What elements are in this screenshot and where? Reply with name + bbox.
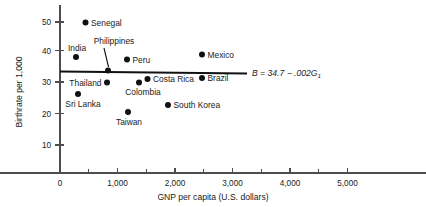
y-axis-title: Birthrate per 1,000 xyxy=(14,56,24,127)
regression-equation-label: B = 34.7 − .002G1 xyxy=(252,68,321,79)
data-point-senegal: Senegal xyxy=(83,18,122,28)
x-tick-label: 4,000 xyxy=(280,179,301,188)
data-point-marker xyxy=(73,54,79,60)
data-point-marker xyxy=(165,102,171,108)
data-point-philippines: Philippines xyxy=(94,36,135,74)
data-point-marker xyxy=(105,68,111,74)
data-point-label: Thailand xyxy=(69,78,101,88)
data-point-label: Senegal xyxy=(91,18,122,28)
y-axis-ticks: 50 40 30 20 10 xyxy=(42,18,64,150)
x-tick-4000: 4,000 xyxy=(280,168,301,188)
equation-text: B = 34.7 − .002G xyxy=(252,68,318,78)
x-axis-ticks: 0 1,000 2,000 3,000 4,000 5,000 xyxy=(58,168,358,188)
data-point-taiwan: Taiwan xyxy=(116,109,142,127)
data-point-thailand: Thailand xyxy=(69,78,110,88)
y-tick-label: 10 xyxy=(42,141,52,150)
y-tick-label: 30 xyxy=(42,78,52,87)
x-tick-label: 0 xyxy=(58,179,63,188)
data-point-label: Sri Lanka xyxy=(65,99,101,109)
x-tick-label: 3,000 xyxy=(222,179,243,188)
data-point-label: Mexico xyxy=(208,50,235,60)
equation-subscript: 1 xyxy=(317,72,320,79)
data-point-marker xyxy=(125,109,131,115)
axes-group xyxy=(0,5,426,173)
y-tick-label: 20 xyxy=(42,110,52,119)
y-tick-label: 50 xyxy=(42,18,52,27)
data-point-label: Colombia xyxy=(125,87,161,97)
y-tick-10: 10 xyxy=(42,141,64,150)
data-point-peru: Peru xyxy=(124,55,151,65)
data-point-marker xyxy=(75,91,81,97)
plot-canvas: 50 40 30 20 10 0 xyxy=(0,0,426,207)
scatter-plot-figure: 50 40 30 20 10 0 xyxy=(0,0,426,207)
data-point-marker xyxy=(136,80,142,86)
x-tick-label: 1,000 xyxy=(107,179,128,188)
data-point-brazil: Brazil xyxy=(199,73,229,83)
data-point-label: Costa Rica xyxy=(153,74,194,84)
data-point-marker xyxy=(83,20,89,26)
y-tick-40: 40 xyxy=(42,47,64,56)
x-tick-2000: 2,000 xyxy=(165,168,186,188)
x-tick-0: 0 xyxy=(58,179,63,188)
y-tick-30: 30 xyxy=(42,78,64,87)
data-point-marker xyxy=(145,76,151,82)
data-point-sri-lanka: Sri Lanka xyxy=(65,91,101,109)
data-point-marker xyxy=(199,52,205,58)
data-point-label: Philippines xyxy=(94,36,135,46)
y-tick-20: 20 xyxy=(42,110,64,119)
y-tick-label: 40 xyxy=(42,47,52,56)
data-point-costa-rica: Costa Rica xyxy=(145,74,195,84)
x-axis-title: GNP per capita (U.S. dollars) xyxy=(157,192,268,202)
y-tick-50: 50 xyxy=(42,18,64,27)
data-point-marker xyxy=(104,80,110,86)
x-tick-5000: 5,000 xyxy=(337,168,358,188)
x-tick-label: 5,000 xyxy=(337,179,358,188)
data-point-south-korea: South Korea xyxy=(165,100,220,110)
philippines-leader-line xyxy=(104,48,109,67)
data-point-label: Brazil xyxy=(208,73,229,83)
data-point-marker xyxy=(199,75,205,81)
x-tick-label: 2,000 xyxy=(165,179,186,188)
data-point-india: India xyxy=(68,43,87,60)
data-point-label: Taiwan xyxy=(116,117,142,127)
data-point-label: South Korea xyxy=(174,100,221,110)
data-point-mexico: Mexico xyxy=(199,50,234,60)
data-point-label: India xyxy=(68,43,87,53)
x-tick-3000: 3,000 xyxy=(222,168,243,188)
data-point-label: Peru xyxy=(133,55,151,65)
data-point-marker xyxy=(124,57,130,63)
x-tick-1000: 1,000 xyxy=(107,168,128,188)
